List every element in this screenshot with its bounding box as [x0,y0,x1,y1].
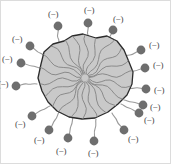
colloid-particle-figure: (−)(−)(−)(−)(−)(−)(−)(−)(−)(−)(−)(−)(−)(… [0,0,171,164]
charge-dot [64,134,73,143]
charge-dot [17,59,26,68]
charge-label: (−) [12,35,22,44]
charge-dot [139,101,148,110]
charge-dot [90,137,99,146]
charge-label: (−) [34,136,44,145]
charge-label: (−) [48,10,58,19]
charge-label: (−) [56,147,66,156]
charge-label: (−) [113,15,123,24]
charge-label: (−) [150,103,160,112]
charge-label: (−) [149,41,159,50]
charge-label: (−) [15,120,25,129]
charge-dot [137,46,146,55]
charge-label: (−) [154,86,164,95]
charge-dot [109,26,118,35]
charge-dot [141,64,150,73]
figure-canvas [0,0,171,164]
charge-label: (−) [2,55,12,64]
charge-dot [135,109,144,118]
charge-dot [54,22,63,31]
charge-label: (−) [144,116,154,125]
charge-dot [28,112,37,121]
charge-dot [84,19,93,28]
charge-dot [142,85,151,94]
charge-dot [45,126,54,135]
charge-dot [26,42,35,51]
charge-label: (−) [0,80,8,89]
charge-label: (−) [128,135,138,144]
charge-dot [12,82,21,91]
charge-label: (−) [153,61,163,70]
charge-label: (−) [88,149,98,158]
charge-label: (−) [84,6,94,15]
